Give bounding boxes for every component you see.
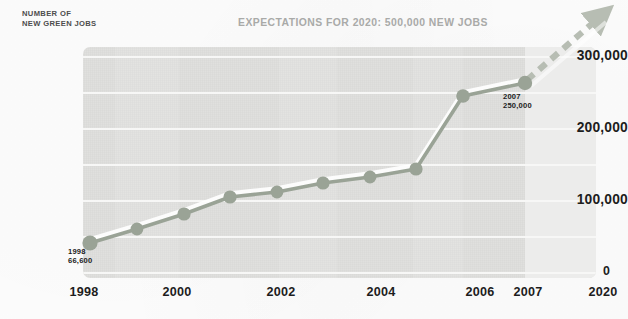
gridline-50000 xyxy=(83,236,596,238)
gridline-150000 xyxy=(83,164,596,166)
chart-headline: EXPECTATIONS FOR 2020: 500,000 NEW JOBS xyxy=(238,17,488,28)
gridline-200000 xyxy=(83,128,596,130)
data-label-2007: 2007 250,000 xyxy=(503,92,532,110)
green-jobs-chart: NUMBER OF NEW GREEN JOBS EXPECTATIONS FO… xyxy=(0,0,628,319)
y-tick-label-200000: 200,000 xyxy=(550,120,628,135)
y-axis-caption: NUMBER OF NEW GREEN JOBS xyxy=(22,9,97,28)
scan-band xyxy=(115,47,179,278)
plot-area xyxy=(83,47,596,278)
scan-band xyxy=(413,47,463,278)
projection-zone xyxy=(525,47,596,278)
y-tick-label-100000: 100,000 xyxy=(550,192,628,207)
gridline-0 xyxy=(83,272,596,274)
gridline-100000 xyxy=(83,200,596,202)
y-tick-label-300000: 300,000 xyxy=(550,48,628,63)
x-tick-label-2020: 2020 xyxy=(588,285,617,299)
x-tick-label-2004: 2004 xyxy=(366,285,395,299)
x-tick-label-2000: 2000 xyxy=(162,285,191,299)
x-tick-label-2007: 2007 xyxy=(513,285,542,299)
y-tick-label-0: 0 xyxy=(550,264,610,278)
x-tick-label-1998: 1998 xyxy=(69,285,98,299)
x-tick-label-2006: 2006 xyxy=(465,285,494,299)
scan-band xyxy=(279,47,337,278)
gridline-300000 xyxy=(83,56,596,58)
x-tick-label-2002: 2002 xyxy=(266,285,295,299)
data-label-1998: 1998 66,600 xyxy=(68,247,92,265)
